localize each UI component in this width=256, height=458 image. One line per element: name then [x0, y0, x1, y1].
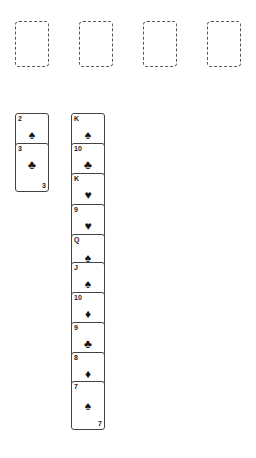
spade-icon: ♠ [16, 129, 48, 141]
club-icon: ♣ [16, 159, 48, 171]
card-rank: Q [74, 235, 79, 244]
card-rank: K [74, 174, 79, 183]
card-rank: 7 [74, 382, 78, 391]
heart-icon: ♥ [72, 220, 104, 232]
spade-icon: ♠ [72, 400, 104, 412]
club-icon: ♣ [72, 338, 104, 350]
card-3-clubs[interactable]: 3 ♣ 3 [15, 143, 49, 192]
card-rank: 3 [18, 144, 22, 153]
club-icon: ♣ [72, 159, 104, 171]
card-rank: 10 [74, 293, 82, 302]
spade-icon: ♠ [72, 129, 104, 141]
card-rank: 10 [74, 144, 82, 153]
card-rank: 2 [18, 114, 22, 123]
diamond-icon: ♦ [72, 308, 104, 320]
foundation-slot-3[interactable] [143, 21, 177, 67]
card-rank-bottom: 7 [98, 419, 102, 428]
spade-icon: ♠ [72, 278, 104, 290]
foundation-slot-4[interactable] [207, 21, 241, 67]
heart-icon: ♥ [72, 189, 104, 201]
card-rank: J [74, 263, 78, 272]
foundation-slot-2[interactable] [79, 21, 113, 67]
card-rank: K [74, 114, 79, 123]
card-rank: 9 [74, 205, 78, 214]
card-rank-bottom: 3 [42, 181, 46, 190]
card-rank: 8 [74, 353, 78, 362]
card-rank: 9 [74, 323, 78, 332]
foundation-slot-1[interactable] [15, 21, 49, 67]
diamond-icon: ♦ [72, 368, 104, 380]
card-7-spades[interactable]: 7 ♠ 7 [71, 381, 105, 430]
